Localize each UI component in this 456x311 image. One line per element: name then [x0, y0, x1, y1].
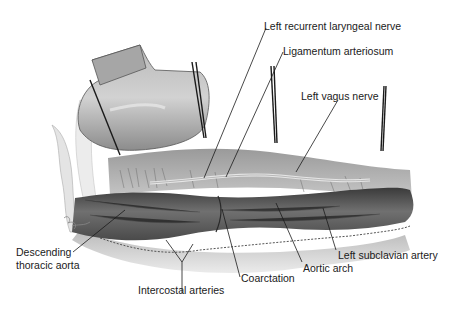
anatomy-illustration: Left recurrent laryngeal nerve Ligamentu…	[0, 0, 456, 311]
label-coarctation: Coarctation	[241, 272, 295, 284]
label-ligamentum-arteriosum: Ligamentum arteriosum	[283, 45, 393, 57]
label-aortic-arch: Aortic arch	[303, 262, 353, 274]
label-intercostal-arteries: Intercostal arteries	[138, 284, 224, 296]
label-left-recurrent-laryngeal-nerve: Left recurrent laryngeal nerve	[264, 20, 401, 32]
label-descending-line1: Descending	[16, 246, 71, 258]
label-descending-line2: thoracic aorta	[16, 259, 80, 271]
label-left-subclavian-artery: Left subclavian artery	[338, 249, 438, 261]
label-left-vagus-nerve: Left vagus nerve	[301, 90, 379, 102]
